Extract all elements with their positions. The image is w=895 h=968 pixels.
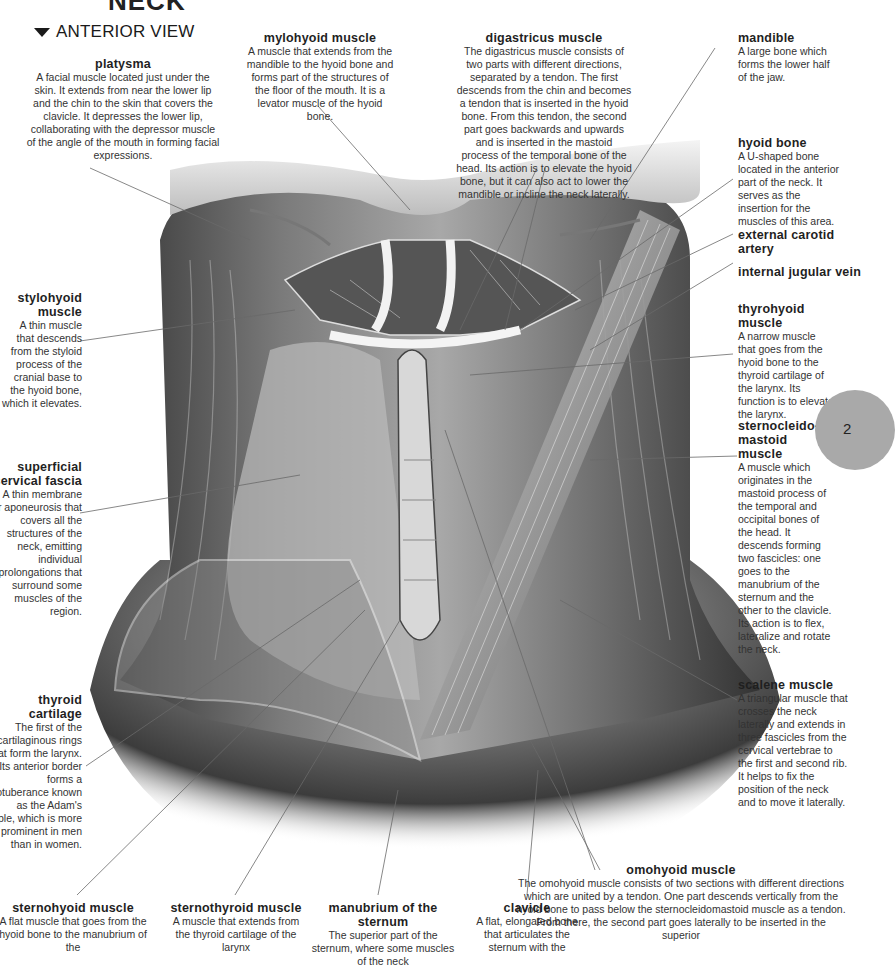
label-thyrohyoid: thyrohyoid muscle A narrow muscle that g…: [738, 302, 834, 421]
label-text: A U-shaped bone located in the anterior …: [738, 150, 843, 228]
label-text: A facial muscle located just under the s…: [26, 71, 220, 162]
label-mandible: mandible A large bone which forms the lo…: [738, 31, 838, 84]
label-title: internal jugular vein: [738, 265, 868, 279]
page-title: NECK: [108, 0, 186, 17]
label-external-carotid-artery: external carotid artery: [738, 228, 868, 256]
label-text: A triangular muscle that crosses the nec…: [738, 692, 848, 809]
label-text: The first of the cartilaginous rings tha…: [0, 721, 82, 851]
label-title: superficial cervical fascia: [0, 460, 82, 488]
label-title: thyroid cartilage: [0, 693, 82, 721]
label-internal-jugular-vein: internal jugular vein: [738, 265, 868, 279]
label-sternohyoid: sternohyoid muscle A flat muscle that go…: [0, 901, 148, 954]
label-sternothyroid: sternothyroid muscle A muscle that exten…: [166, 901, 306, 954]
label-hyoid-bone: hyoid bone A U-shaped bone located in th…: [738, 136, 843, 228]
page-number: 2: [843, 420, 851, 437]
label-text: A muscle that extends from the thyroid c…: [166, 915, 306, 954]
label-title: external carotid artery: [738, 228, 868, 256]
label-title: scalene muscle: [738, 678, 848, 692]
label-text: A flat, elongated bone that articulates …: [467, 915, 587, 954]
label-title: sternothyroid muscle: [166, 901, 306, 915]
label-platysma: platysma A facial muscle located just un…: [26, 57, 220, 162]
page-number-tab: 2: [815, 390, 895, 470]
label-text: A flat muscle that goes from the hyoid b…: [0, 915, 148, 954]
label-scalene: scalene muscle A triangular muscle that …: [738, 678, 848, 809]
label-digastricus: digastricus muscle The digastricus muscl…: [456, 31, 632, 201]
label-mylohyoid: mylohyoid muscle A muscle that extends f…: [246, 31, 394, 123]
label-text: The digastricus muscle consists of two p…: [456, 45, 632, 201]
label-title: stylohyoid muscle: [2, 291, 82, 319]
label-text: A thin membrane or aponeurosis that cove…: [0, 488, 82, 618]
label-title: manubrium of the sternum: [308, 901, 458, 929]
label-title: sternohyoid muscle: [0, 901, 148, 915]
label-text: A muscle which originates in the mastoid…: [738, 461, 832, 656]
section-header: ANTERIOR VIEW: [34, 22, 195, 42]
label-title: thyrohyoid muscle: [738, 302, 834, 330]
label-manubrium: manubrium of the sternum The superior pa…: [308, 901, 458, 968]
label-title: mylohyoid muscle: [246, 31, 394, 45]
label-text: A muscle that extends from the mandible …: [246, 45, 394, 123]
label-text: The superior part of the sternum, where …: [308, 929, 458, 968]
label-title: hyoid bone: [738, 136, 843, 150]
label-title: mandible: [738, 31, 838, 45]
section-title: ANTERIOR VIEW: [56, 22, 195, 42]
label-superficial-cervical-fascia: superficial cervical fascia A thin membr…: [0, 460, 82, 618]
label-text: A thin muscle that descends from the sty…: [2, 319, 82, 410]
label-title: digastricus muscle: [456, 31, 632, 45]
label-clavicle: clavicle A flat, elongated bone that art…: [467, 901, 587, 954]
label-thyroid-cartilage: thyroid cartilage The first of the carti…: [0, 693, 82, 851]
label-text: A narrow muscle that goes from the hyoid…: [738, 330, 834, 421]
triangle-down-icon: [34, 28, 50, 37]
label-stylohyoid: stylohyoid muscle A thin muscle that des…: [2, 291, 82, 410]
label-title: omohyoid muscle: [516, 863, 846, 877]
label-title: platysma: [26, 57, 220, 71]
label-text: A large bone which forms the lower half …: [738, 45, 838, 84]
label-sternocleidomastoid: sternocleido-mastoid muscle A muscle whi…: [738, 419, 832, 656]
label-title: clavicle: [467, 901, 587, 915]
